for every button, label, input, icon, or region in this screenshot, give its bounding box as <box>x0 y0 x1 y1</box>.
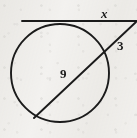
geometry-canvas <box>0 0 137 138</box>
geometry-figure: x 3 9 <box>0 0 137 138</box>
label-external-secant-3: 3 <box>117 39 124 52</box>
secant-line <box>34 22 136 118</box>
label-tangent-x: x <box>101 7 108 20</box>
label-chord-9: 9 <box>60 67 67 80</box>
